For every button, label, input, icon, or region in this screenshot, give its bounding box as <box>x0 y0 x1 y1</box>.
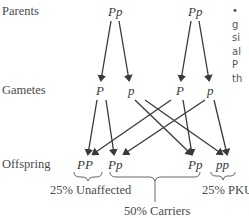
gamete-4: p <box>207 83 214 99</box>
side-text-line-5: P <box>232 58 238 72</box>
gamete-2: p <box>128 83 135 99</box>
outcome-unaffected: 25% Unaffected <box>50 183 131 198</box>
side-text-line-2: g <box>232 18 238 32</box>
row-label-gametes: Gametes <box>2 83 46 98</box>
side-text-line-4: al <box>232 45 241 59</box>
offspring-genotype-2: Pp <box>108 157 122 173</box>
side-text-line-6: th <box>232 72 242 86</box>
row-label-offspring: Offspring <box>2 157 50 172</box>
gamete-1: P <box>96 83 104 99</box>
gamete-3: P <box>176 83 184 99</box>
side-text-line-1: • <box>232 4 238 18</box>
parent-genotype-1: Pp <box>108 4 122 20</box>
outcome-carriers: 50% Carriers <box>124 204 190 218</box>
offspring-genotype-1: PP <box>77 157 93 173</box>
row-label-parents: Parents <box>2 4 39 19</box>
offspring-genotype-4: pp <box>216 157 229 173</box>
offspring-genotype-3: Pp <box>188 157 202 173</box>
side-text-line-3: si <box>232 31 240 45</box>
parent-genotype-2: Pp <box>188 4 202 20</box>
outcome-pku: 25% PKU <box>202 183 249 198</box>
